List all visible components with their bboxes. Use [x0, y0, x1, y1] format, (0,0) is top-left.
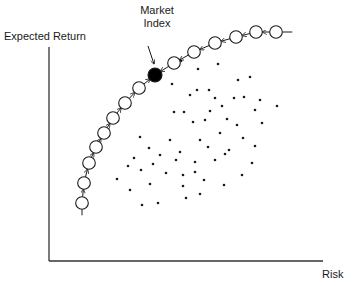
portfolio-dot	[182, 174, 185, 177]
frontier-portfolio-point	[119, 97, 132, 110]
portfolio-dot	[199, 139, 202, 142]
portfolio-dot	[148, 147, 151, 150]
portfolio-dot	[149, 183, 152, 186]
portfolio-dot	[224, 153, 227, 156]
portfolio-dot	[237, 79, 240, 82]
frontier-portfolio-point	[133, 82, 146, 95]
portfolio-dot	[182, 185, 185, 188]
portfolio-dot	[209, 110, 212, 113]
portfolio-dot	[197, 68, 200, 71]
portfolio-dot	[196, 89, 199, 92]
portfolio-dot	[207, 146, 210, 149]
frontier-arrow	[107, 123, 110, 127]
frontier-arrow	[86, 169, 88, 177]
portfolio-dot	[236, 124, 239, 127]
portfolio-dot	[129, 189, 132, 192]
portfolio-dot	[192, 121, 195, 124]
portfolio-dot	[171, 83, 174, 86]
portfolio-dot	[204, 119, 207, 122]
portfolio-dot	[179, 151, 182, 154]
market-index-point	[148, 68, 162, 82]
portfolio-dot	[223, 184, 226, 187]
portfolio-dot	[203, 179, 206, 182]
portfolio-dot	[185, 197, 188, 200]
frontier-arrow	[242, 34, 250, 36]
frontier-portfolio-point	[209, 37, 222, 50]
portfolio-dot	[228, 149, 231, 152]
portfolio-dot	[276, 105, 279, 108]
frontier-portfolio-point	[188, 46, 201, 59]
frontier-portfolio-point	[76, 197, 89, 210]
portfolio-dot	[259, 99, 262, 102]
frontier-portfolio-point	[90, 141, 103, 154]
portfolio-dot	[139, 136, 142, 139]
portfolio-dot	[242, 137, 245, 140]
portfolio-dot	[249, 76, 252, 79]
portfolio-dot	[159, 154, 162, 157]
portfolio-dot	[214, 159, 217, 162]
portfolio-dot	[169, 139, 172, 142]
portfolio-dot	[208, 89, 211, 92]
frontier-portfolio-point	[98, 127, 111, 140]
portfolio-dot	[251, 162, 254, 165]
portfolio-dot	[133, 157, 136, 160]
portfolio-dot	[254, 109, 257, 112]
portfolio-dot	[261, 122, 264, 125]
portfolio-dot	[194, 171, 197, 174]
portfolio-dot	[241, 174, 244, 177]
portfolio-dot	[226, 118, 229, 121]
portfolio-dot	[219, 132, 222, 135]
frontier-portfolio-point	[270, 26, 283, 39]
market-index-pointer	[148, 46, 154, 64]
portfolio-dot	[221, 105, 224, 108]
frontier-portfolio-point	[78, 177, 91, 190]
portfolio-dot	[141, 204, 144, 207]
portfolio-dot	[214, 97, 217, 100]
frontier-arrow	[160, 66, 168, 71]
portfolio-dot	[140, 169, 143, 172]
portfolio-dot	[116, 178, 119, 181]
portfolio-dot	[127, 165, 130, 168]
frontier-arrow	[83, 189, 84, 196]
frontier-portfolio-point	[83, 157, 96, 170]
efficient-frontier-curve	[76, 26, 293, 216]
portfolio-dot	[233, 97, 236, 100]
portfolio-dot	[152, 163, 155, 166]
frontier-arrow	[117, 108, 121, 113]
portfolio-dot	[165, 172, 168, 175]
portfolio-dot	[157, 202, 160, 205]
portfolio-dot	[217, 63, 220, 66]
frontier-portfolio-point	[168, 57, 181, 70]
portfolio-dot	[254, 145, 257, 148]
portfolio-dot	[189, 94, 192, 97]
frontier-portfolio-point	[230, 31, 243, 44]
efficient-frontier-diagram	[0, 0, 353, 286]
portfolio-dot	[173, 111, 176, 114]
portfolio-dot	[175, 159, 178, 162]
frontier-arrow	[200, 45, 209, 49]
portfolio-dot	[194, 161, 197, 164]
portfolio-dot	[183, 111, 186, 114]
frontier-arrow	[92, 153, 94, 157]
frontier-arrow	[129, 93, 134, 99]
portfolio-dot	[243, 96, 246, 99]
frontier-arrow	[180, 55, 189, 60]
frontier-arrow	[221, 39, 230, 42]
frontier-portfolio-point	[250, 26, 263, 39]
frontier-portfolio-point	[107, 112, 120, 125]
portfolio-dot	[199, 193, 202, 196]
